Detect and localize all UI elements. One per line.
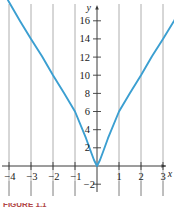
x-tick-label: 3 <box>160 171 165 182</box>
y-axis-label: y <box>86 2 92 13</box>
y-tick-labels: 16 14 12 10 8 6 4 2 −2 <box>80 15 96 190</box>
x-axis-label: x <box>167 168 173 179</box>
y-tick-label-negative-two: −2 <box>84 179 95 190</box>
y-tick-label: 16 <box>80 15 91 26</box>
parabola-curve <box>7 0 174 166</box>
x-tick-label: 2 <box>138 171 143 182</box>
parabola-chart: 16 14 12 10 8 6 4 2 −2 −4 −3 −2 −1 1 2 3… <box>0 0 174 209</box>
x-tick-label: −1 <box>70 171 81 182</box>
figure-container: 16 14 12 10 8 6 4 2 −2 −4 −3 −2 −1 1 2 3… <box>0 0 174 209</box>
x-tick-label: −2 <box>48 171 59 182</box>
y-tick-label: 2 <box>85 142 90 153</box>
x-tick-label: 1 <box>116 171 121 182</box>
y-tick-label: 14 <box>80 33 91 44</box>
figure-caption: FIGURE 1.1 <box>3 203 47 209</box>
figure-caption-clip: FIGURE 1.1 <box>0 203 174 209</box>
x-tick-label: −3 <box>26 171 37 182</box>
y-tick-label: 4 <box>85 124 91 135</box>
x-tick-label: −4 <box>4 171 16 182</box>
y-tick-label: 6 <box>85 106 90 117</box>
y-tick-label: 10 <box>80 70 91 81</box>
y-tick-label: 12 <box>80 52 91 63</box>
y-tick-label: 8 <box>85 88 90 99</box>
